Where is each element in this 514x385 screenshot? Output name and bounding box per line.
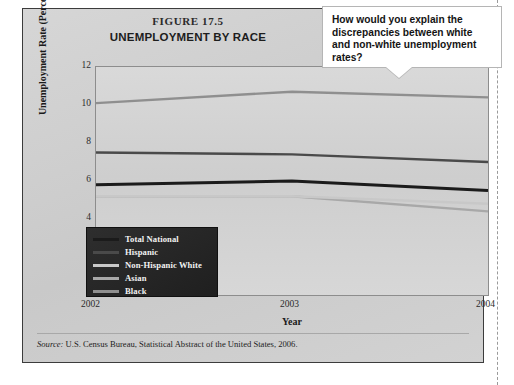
source-text: U.S. Census Bureau, Statistical Abstract… [66,339,298,349]
chart-legend: Total National Hispanic Non-Hispanic Whi… [86,227,218,297]
legend-swatch-hispanic [93,251,119,254]
legend-item-black: Black [93,285,211,297]
x-axis-label: Year [95,316,489,327]
legend-label-total-national: Total National [125,234,179,244]
figure-number: FIGURE 17.5 [23,15,353,27]
callout-tail [386,67,412,78]
figure-title: UNEMPLOYMENT BY RACE [23,31,353,43]
legend-item-asian: Asian [93,272,211,284]
legend-item-hispanic: Hispanic [93,246,211,258]
legend-swatch-black [93,290,119,293]
legend-item-total-national: Total National [93,233,211,245]
source-divider [37,333,469,334]
series-line [96,196,488,211]
figure-page: FIGURE 17.5 UNEMPLOYMENT BY RACE Unemplo… [0,0,514,385]
x-tick-2003: 2003 [280,299,299,309]
y-tick-10: 10 [71,98,91,108]
y-tick-4: 4 [71,212,91,222]
legend-swatch-total-national [93,238,119,241]
legend-label-non-hispanic-white: Non-Hispanic White [125,260,202,270]
legend-label-black: Black [125,286,147,296]
series-line [96,196,488,204]
x-tick-2002: 2002 [81,299,100,309]
source-prefix: Source: [37,339,63,349]
legend-label-hispanic: Hispanic [125,247,158,257]
legend-swatch-asian [93,277,119,280]
y-tick-8: 8 [71,136,91,146]
callout-text: How would you explain the discrepancies … [332,14,476,63]
y-tick-12: 12 [71,60,91,70]
legend-swatch-non-hispanic-white [93,264,119,267]
x-tick-2004: 2004 [476,299,495,309]
series-line [96,92,488,103]
legend-item-non-hispanic-white: Non-Hispanic White [93,259,211,271]
series-line [96,181,488,191]
legend-label-asian: Asian [125,273,147,283]
callout-box: How would you explain the discrepancies … [322,6,502,68]
y-tick-6: 6 [71,174,91,184]
source-note: Source: U.S. Census Bureau, Statistical … [37,339,477,349]
series-line [96,153,488,163]
y-axis-label: Unemployment Rate (Percentage) [37,0,48,118]
